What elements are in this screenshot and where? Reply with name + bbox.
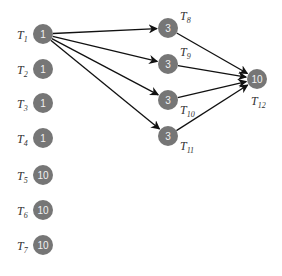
node-value: 1: [40, 64, 46, 75]
node-label: T7: [17, 239, 29, 255]
node-value: 1: [40, 29, 46, 40]
node-label: T3: [17, 97, 28, 113]
node-t12: 10T12: [247, 69, 267, 110]
nodes: 1T11T21T31T410T510T610T73T83T93T103T1110…: [17, 9, 267, 255]
node-value: 3: [165, 131, 171, 142]
node-value: 10: [37, 170, 49, 181]
node-t5: 10T5: [17, 165, 53, 185]
node-label: T11: [180, 139, 194, 155]
node-label: T12: [251, 94, 266, 110]
node-value: 1: [40, 98, 46, 109]
node-value: 3: [165, 95, 171, 106]
node-value: 10: [251, 74, 263, 85]
node-label-subscript: 11: [187, 146, 194, 155]
node-label: T6: [17, 204, 28, 220]
node-label: T4: [17, 132, 28, 148]
node-label-subscript: 7: [24, 246, 29, 255]
node-t7: 10T7: [17, 235, 53, 255]
node-value: 10: [37, 240, 49, 251]
edge-t1-to-t8: [53, 29, 157, 34]
node-label: T5: [17, 169, 28, 185]
node-label-subscript: 8: [187, 16, 191, 25]
node-t11: 3T11: [158, 126, 194, 155]
node-label-subscript: 4: [24, 139, 28, 148]
edge-t11-to-t12: [176, 85, 247, 131]
node-label: T10: [180, 103, 195, 119]
node-label: T1: [17, 28, 28, 44]
task-graph: 1T11T21T31T410T510T610T73T83T93T103T1110…: [0, 0, 282, 276]
node-t3: 1T3: [17, 93, 53, 113]
edge-t1-to-t9: [53, 36, 158, 61]
node-value: 3: [165, 59, 171, 70]
node-label: T2: [17, 63, 28, 79]
node-t1: 1T1: [17, 24, 53, 44]
node-label-subscript: 10: [187, 110, 195, 119]
node-label-subscript: 1: [24, 35, 28, 44]
node-t8: 3T8: [158, 9, 191, 38]
edges: [51, 29, 248, 131]
node-label-subscript: 2: [24, 70, 28, 79]
node-t2: 1T2: [17, 59, 53, 79]
node-value: 1: [40, 133, 46, 144]
node-label-subscript: 12: [258, 101, 266, 110]
edge-t1-to-t11: [51, 40, 160, 129]
node-value: 10: [37, 205, 49, 216]
edge-t10-to-t12: [178, 82, 247, 98]
node-t6: 10T6: [17, 200, 53, 220]
node-t9: 3T9: [158, 45, 191, 74]
node-value: 3: [165, 23, 171, 34]
edge-t1-to-t10: [52, 39, 158, 95]
node-label-subscript: 6: [24, 211, 28, 220]
node-label-subscript: 3: [23, 104, 28, 113]
node-label: T8: [180, 9, 191, 25]
node-label-subscript: 5: [24, 176, 28, 185]
node-t4: 1T4: [17, 128, 53, 148]
node-label-subscript: 9: [187, 52, 191, 61]
node-label: T9: [180, 45, 191, 61]
